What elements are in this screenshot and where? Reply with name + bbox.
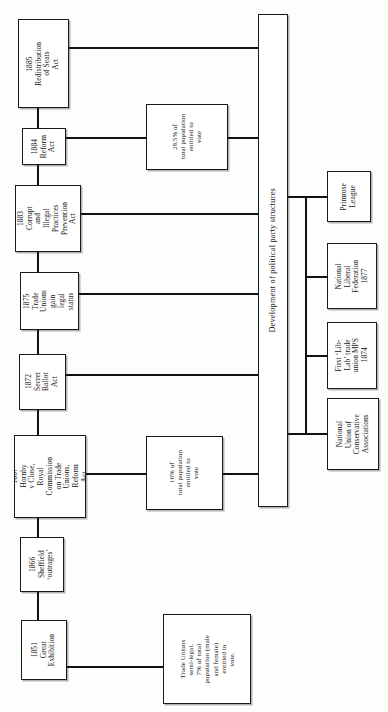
connector-1875-to-center [79, 293, 259, 295]
note-box-1867-franchise: 16% of total population entitled to vote [146, 436, 223, 510]
event-label-1866: 1866 Sheffield ‘outrages’ [29, 549, 55, 580]
party-box-national-liberal-federation: National Liberal Federation 1877 [327, 243, 377, 309]
note-label-1851: Trade Unions semi-legal. 7% of total pop… [179, 635, 236, 683]
party-label-primrose-league: Primrose League [340, 183, 357, 211]
event-box-1872: 1872 Secret Ballot Act [19, 354, 66, 410]
event-label-1867: 1867 Hornby v Close, Royal Commission on… [14, 457, 86, 495]
note-box-1884-franchise: 28.5% of total population entitled to vo… [146, 104, 228, 170]
party-label-nuca: National Union of Conservative Associati… [336, 414, 371, 454]
connector-1885-to-center [69, 47, 259, 49]
party-box-national-union-conservative-associations: National Union of Conservative Associati… [327, 398, 379, 470]
branch-liblab [305, 355, 327, 357]
center-node-label: Development of political party structure… [268, 188, 278, 333]
spine-segment-1867-1866 [37, 518, 39, 537]
branch-primrose [305, 196, 327, 198]
event-box-1883: 1883 Corrupt and Illegal Practices Preve… [15, 185, 81, 252]
event-box-1884: 1884 Reform Act [22, 128, 66, 165]
spine-segment-1866-1851 [37, 592, 39, 620]
connector-note1867-to-center [223, 473, 259, 475]
timeline-diagram: 1885 Redistribution of Seats Act 1884 Re… [0, 0, 388, 712]
connector-note1884-to-center [228, 137, 259, 139]
event-label-1883: 1883 Corrupt and Illegal Practices Preve… [17, 202, 78, 235]
event-box-1885: 1885 Redistribution of Seats Act [18, 19, 69, 108]
event-label-1851: 1851 Great Exhibition [31, 634, 57, 666]
spine-segment-1875-1872 [37, 330, 39, 354]
event-box-1851: 1851 Great Exhibition [21, 620, 67, 680]
branch-nuca [305, 433, 327, 435]
connector-1872-to-center [66, 374, 259, 376]
center-node-development-of-party-structures: Development of political party structure… [258, 14, 288, 507]
event-label-1885: 1885 Redistribution of Seats Act [26, 42, 61, 86]
event-box-1866: 1866 Sheffield ‘outrages’ [20, 537, 64, 592]
connector-1884-to-note [66, 137, 146, 139]
party-box-primrose-league: Primrose League [327, 171, 371, 222]
party-label-national-liberal-federation: National Liberal Federation 1877 [335, 260, 370, 293]
spine-segment-1885-1884 [37, 108, 39, 128]
event-label-1875: 1875 Trade Unions gain legal status [23, 290, 75, 312]
spine-segment-1883-1875 [37, 252, 39, 272]
note-label-1884: 28.5% of total population entitled to vo… [171, 114, 204, 159]
connector-center-to-nuca [288, 433, 306, 435]
connector-1883-to-center [81, 213, 259, 215]
party-branch-riser [305, 196, 307, 433]
spine-segment-1884-1883 [37, 165, 39, 185]
note-label-1867: 16% of total population entitled to vote [168, 450, 201, 495]
event-label-1872: 1872 Secret Ballot Act [25, 372, 60, 391]
event-box-1875: 1875 Trade Unions gain legal status [20, 272, 79, 330]
spine-segment-1872-1867 [37, 410, 39, 435]
connector-center-to-primrose [288, 196, 306, 198]
party-label-lib-lab-mps: First ‘Lib- Lab’ trade union MPS 1874 [335, 338, 370, 372]
note-box-1851-trade-unions: Trade Unions semi-legal. 7% of total pop… [163, 614, 251, 704]
event-box-1867: 1867 Hornby v Close, Royal Commission on… [14, 435, 86, 518]
connector-1851-to-note [67, 666, 163, 668]
event-label-1884: 1884 Reform Act [31, 135, 57, 158]
party-box-lib-lab-mps: First ‘Lib- Lab’ trade union MPS 1874 [327, 322, 377, 389]
branch-nlf [305, 276, 327, 278]
connector-1867-to-note [86, 473, 146, 475]
